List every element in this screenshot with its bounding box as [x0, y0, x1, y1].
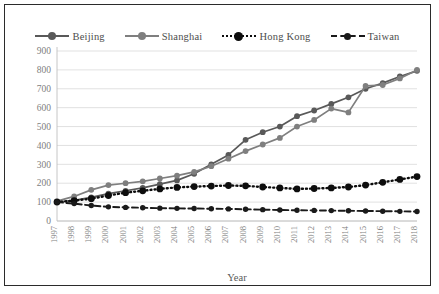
y-axis-tick-label: 600: [37, 103, 52, 113]
series-hong-kong: [54, 173, 421, 205]
data-point: [396, 176, 403, 183]
data-point: [346, 109, 352, 115]
data-point: [208, 163, 214, 169]
data-point: [71, 201, 76, 206]
series-line: [57, 70, 417, 201]
data-point: [191, 183, 198, 190]
data-point: [243, 137, 249, 143]
data-point: [123, 180, 129, 186]
data-point: [225, 182, 232, 189]
data-point: [397, 75, 403, 81]
x-axis-tick-label: 2018: [409, 226, 419, 243]
x-axis-tick-label: 2000: [100, 226, 110, 243]
data-point: [380, 82, 386, 88]
data-point: [259, 184, 266, 191]
data-point: [54, 199, 59, 204]
series-taiwan: [54, 199, 419, 214]
data-point: [157, 176, 163, 182]
x-axis-tick-label: 1997: [49, 226, 59, 243]
x-axis-tick-label: 2012: [306, 226, 316, 243]
data-point: [363, 83, 369, 89]
data-point: [294, 185, 301, 192]
data-point: [414, 173, 421, 180]
x-axis-tick-label: 1998: [66, 226, 76, 243]
data-point: [106, 204, 111, 209]
y-axis-tick-label: 400: [37, 141, 52, 151]
line-chart: 0100200300400500600700800900199719981999…: [5, 5, 432, 287]
data-point: [311, 117, 317, 123]
data-point: [174, 184, 181, 191]
x-axis-tick-label: 2002: [135, 226, 145, 243]
data-point: [346, 94, 352, 100]
data-point: [88, 187, 94, 193]
data-point: [311, 185, 318, 192]
y-axis-tick-label: 900: [37, 46, 52, 56]
y-axis-tick-label: 500: [37, 122, 52, 132]
y-axis-tick-label: 300: [37, 160, 52, 170]
x-axis-tick-label: 2016: [375, 226, 385, 243]
data-point: [89, 203, 94, 208]
data-point: [157, 205, 162, 210]
data-point: [380, 208, 385, 213]
x-axis-tick-label: 2015: [358, 226, 368, 243]
chart-frame: Beijing Shanghai Hong Kong Taiwan: [4, 4, 431, 286]
data-point: [397, 209, 402, 214]
x-axis-ticks: 1997199819992000200120022003200420052006…: [49, 225, 419, 243]
data-point: [139, 187, 146, 194]
data-point: [414, 209, 419, 214]
data-point: [123, 205, 128, 210]
data-point: [260, 142, 266, 148]
x-axis-tick-label: 2008: [238, 226, 248, 243]
y-axis-tick-label: 100: [37, 197, 52, 207]
x-axis-tick-label: 2011: [289, 226, 299, 243]
x-axis-tick-label: 2004: [169, 225, 179, 243]
data-point: [174, 206, 179, 211]
data-point: [88, 195, 95, 202]
chart-canvas: Beijing Shanghai Hong Kong Taiwan: [5, 5, 430, 285]
data-point: [328, 185, 335, 192]
y-axis-tick-label: 200: [37, 178, 52, 188]
data-point: [294, 124, 300, 130]
x-axis-tick-label: 2014: [340, 225, 350, 243]
data-point: [276, 185, 283, 192]
data-point: [260, 129, 266, 135]
x-axis-tick-label: 2005: [186, 226, 196, 243]
data-point: [140, 178, 146, 184]
plot-area: 0100200300400500600700800900199719981999…: [5, 5, 432, 287]
data-point: [208, 183, 215, 190]
x-axis-tick-label: 2007: [220, 226, 230, 243]
data-point: [311, 108, 317, 114]
y-axis-tick-label: 700: [37, 84, 52, 94]
data-point: [379, 179, 386, 186]
data-point: [346, 208, 351, 213]
data-point: [243, 148, 249, 154]
x-axis-tick-label: 2010: [272, 226, 282, 243]
y-axis-tick-label: 0: [46, 216, 51, 226]
data-point: [106, 182, 112, 188]
data-point: [226, 156, 232, 162]
data-point: [243, 207, 248, 212]
y-axis-tick-label: 800: [37, 65, 52, 75]
data-point: [363, 208, 368, 213]
data-point: [191, 169, 197, 175]
data-point: [329, 208, 334, 213]
x-axis-title: Year: [227, 272, 247, 283]
data-point: [122, 189, 129, 196]
x-axis-tick-label: 1999: [83, 226, 93, 243]
data-point: [328, 106, 334, 112]
series-line: [57, 177, 417, 203]
data-point: [311, 208, 316, 213]
x-axis-tick-label: 2009: [255, 226, 265, 243]
data-point: [174, 173, 180, 179]
data-point: [209, 206, 214, 211]
data-point: [277, 135, 283, 141]
data-point: [294, 113, 300, 119]
data-point: [277, 124, 283, 130]
x-axis-tick-label: 2006: [203, 226, 213, 243]
x-axis-tick-label: 2003: [152, 226, 162, 243]
data-point: [260, 207, 265, 212]
data-point: [345, 184, 352, 191]
x-axis-tick-label: 2013: [323, 226, 333, 243]
data-point: [226, 206, 231, 211]
data-point: [277, 207, 282, 212]
